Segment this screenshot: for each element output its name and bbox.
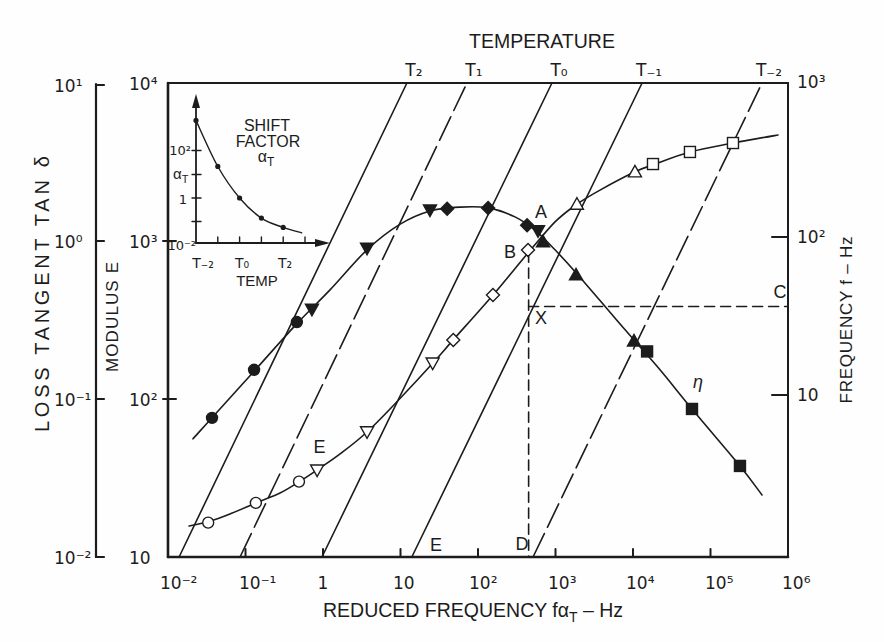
modulus-axis: 10⁴ 10³ 10² 10 MODULUS E	[103, 74, 158, 568]
frequency-tick-label-10: 10	[797, 385, 819, 405]
x-tick-label-10em1: 10⁻¹	[239, 573, 276, 593]
modulus-tick-label-10: 10	[129, 548, 151, 568]
filled-square-marker	[734, 460, 745, 471]
x-tick-label-10: 10	[393, 573, 415, 593]
isotherm-label-tm1: T₋₁	[635, 60, 662, 80]
inset-y-label-10em2: 10⁻²	[167, 238, 196, 253]
isotherm-label-t2: T₂	[404, 60, 422, 80]
x-axis-title-tail: – Hz	[578, 599, 624, 621]
open-circle-marker	[293, 476, 304, 487]
fitted-curves	[189, 135, 778, 526]
filled-diamond-marker	[441, 202, 454, 215]
inset-x-label-tm2: T₋₂	[191, 255, 214, 271]
filled-square-marker	[686, 403, 697, 414]
annotation-e-curve: E	[313, 437, 325, 457]
annotation-b: B	[504, 242, 516, 262]
isotherm-line	[533, 83, 762, 557]
shift-factor-inset: 10² αT 1 10⁻² T₋₂ T₀ T₂ TEMP SHIFT FACTO…	[167, 94, 330, 289]
x-tick-label-10e5: 10⁵	[705, 573, 733, 593]
annotation-d: D	[516, 534, 529, 554]
isotherm-label-tm2: T₋₂	[755, 60, 782, 80]
inset-title-line3: αT	[258, 148, 275, 169]
open-triangle-up-marker	[570, 198, 583, 210]
annotation-x: X	[535, 308, 547, 328]
open-square-marker	[647, 159, 658, 170]
open-diamond-marker	[522, 244, 535, 257]
inset-x-label-t0: T₀	[234, 255, 250, 271]
inset-x-axis-title: TEMP	[236, 272, 278, 289]
filled-circle-marker	[207, 412, 218, 423]
isotherm-line	[412, 83, 642, 557]
inset-y-label-10e2: 10²	[169, 143, 191, 158]
inset-data-point	[215, 164, 220, 169]
inset-title-line1: SHIFT	[244, 117, 290, 134]
inset-data-point	[237, 195, 242, 200]
filled-circle-marker	[291, 317, 302, 328]
x-tick-label-1: 1	[318, 573, 329, 593]
temperature-title: TEMPERATURE	[469, 30, 615, 52]
inset-data-point	[193, 118, 198, 123]
annotation-e-axis: E	[430, 535, 442, 555]
modulus-tick-label-10e4: 10⁴	[129, 74, 158, 94]
nomogram-chart: TEMPERATURE T₂ T₁ T₀ T₋₁ T₋₂ 10¹ 10⁰ 10⁻…	[0, 0, 884, 642]
inset-title-alpha: α	[258, 148, 267, 165]
filled-square-marker	[642, 346, 653, 357]
x-tick-label-10e6: 10⁶	[782, 573, 811, 593]
filled-diamond-marker	[482, 201, 495, 214]
inset-y-axis-name-sub: T	[182, 173, 189, 185]
loss-tick-label-10em2: 10⁻²	[54, 548, 91, 568]
open-triangle-up-marker	[628, 165, 641, 177]
x-tick-label-10e3: 10³	[548, 573, 576, 593]
filled-triangle-down-marker	[423, 205, 436, 217]
x-tick-label-10e4: 10⁴	[626, 573, 655, 593]
frequency-axis: 10³ 10² 10 FREQUENCY f – Hz	[797, 72, 856, 405]
open-square-marker	[727, 138, 738, 149]
inset-data-point	[281, 225, 286, 230]
isotherm-label-t0: T₀	[549, 60, 567, 80]
data-markers	[203, 138, 746, 529]
loss-tick-label-10em1: 10⁻¹	[54, 390, 91, 410]
x-tick-label-10e2: 10²	[469, 573, 497, 593]
annotation-eta: η	[693, 372, 703, 392]
inset-y-arrow-icon	[192, 94, 200, 108]
isotherm-label-t1: T₁	[464, 60, 482, 80]
x-axis-title-main: REDUCED FREQUENCY fα	[323, 599, 569, 621]
inset-x-label-t2: T₂	[277, 255, 292, 271]
open-circle-marker	[250, 497, 261, 508]
open-square-marker	[684, 146, 695, 157]
loss-tick-label-10e1: 10¹	[54, 76, 82, 96]
filled-triangle-down-marker	[361, 243, 374, 255]
filled-circle-marker	[249, 364, 260, 375]
frequency-tick-label-10e3: 10³	[797, 72, 825, 92]
frequency-axis-title: FREQUENCY f – Hz	[837, 237, 856, 404]
filled-triangle-down-marker	[305, 304, 318, 316]
figure: TEMPERATURE T₂ T₁ T₀ T₋₁ T₋₂ 10¹ 10⁰ 10⁻…	[0, 0, 884, 642]
x-tick-label-10em2: 10⁻²	[160, 573, 197, 593]
open-triangle-down-marker	[311, 465, 324, 477]
loss-tangent-axis: 10¹ 10⁰ 10⁻¹ 10⁻² LOSS TANGENT TAN δ	[31, 76, 104, 568]
annotation-a: A	[535, 202, 547, 222]
open-circle-marker	[203, 517, 214, 528]
curve-modulus-e	[189, 135, 778, 526]
reduced-frequency-axis: 10⁻² 10⁻¹ 1 10 10² 10³ 10⁴ 10⁵ 10⁶ REDUC…	[160, 573, 811, 625]
isotherm-line	[322, 83, 552, 557]
inset-y-axis-name: αT	[173, 165, 189, 185]
modulus-axis-title: MODULUS E	[103, 262, 122, 372]
inset-title-line2: FACTOR	[236, 133, 301, 150]
inset-x-arrow-icon	[315, 239, 330, 247]
frequency-tick-label-10e2: 10²	[797, 227, 825, 247]
inset-title-subscript: T	[267, 155, 275, 169]
loss-tick-label-10e0: 10⁰	[54, 232, 83, 252]
filled-triangle-up-marker	[570, 268, 583, 280]
x-axis-title: REDUCED FREQUENCY fαT – Hz	[323, 599, 623, 625]
inset-y-axis-name-main: α	[173, 165, 182, 182]
inset-data-point	[259, 215, 264, 220]
modulus-tick-label-10e3: 10³	[129, 232, 157, 252]
inset-y-label-1: 1	[179, 192, 187, 207]
annotation-c: C	[774, 282, 787, 302]
modulus-tick-label-10e2: 10²	[129, 390, 157, 410]
loss-tangent-axis-title: LOSS TANGENT TAN δ	[31, 156, 53, 432]
